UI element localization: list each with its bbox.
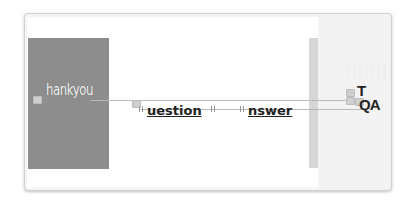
thankyou-text[interactable]: hankyou — [46, 81, 93, 99]
answer-text[interactable]: nswer — [248, 103, 292, 118]
title-qa-glyph[interactable]: QA — [359, 96, 380, 113]
faint-placeholder — [347, 64, 392, 79]
vertical-bar-shape[interactable] — [309, 38, 318, 168]
slide-card — [24, 13, 392, 191]
anchor-tick-icon — [211, 106, 215, 112]
question-text[interactable]: uestion — [147, 103, 202, 118]
anchor-handle-icon[interactable] — [346, 97, 355, 105]
anchor-tick-icon — [139, 106, 143, 112]
anchor-tick-icon — [240, 106, 244, 112]
anchor-handle-icon[interactable] — [346, 89, 355, 97]
anchor-handle-icon[interactable] — [33, 96, 42, 104]
connector-line-top — [90, 100, 348, 101]
